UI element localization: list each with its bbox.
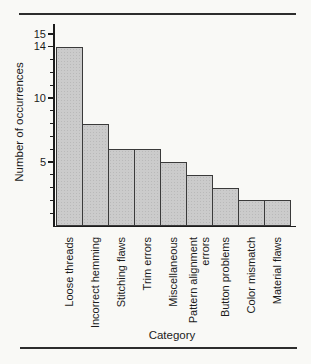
y-axis-title: Number of occurrences: [13, 47, 26, 197]
bar-pattern-alignment-errors: [186, 175, 213, 226]
bar-loose-threads: [56, 47, 83, 226]
x-tick-label-miscellaneous: Miscellaneous: [167, 237, 179, 333]
y-tick-label-15: 15: [22, 28, 46, 41]
x-axis-line: [53, 226, 296, 228]
y-tick-label-5: 5: [22, 156, 46, 169]
bar-material-flaws: [264, 200, 291, 226]
bar-button-problems: [212, 188, 239, 226]
x-tick-label-pattern-alignment-errors: Pattern alignment errors: [187, 237, 211, 333]
bar-incorrect-hemming: [82, 124, 109, 226]
y-tick-label-10: 10: [22, 92, 46, 105]
x-tick-label-material-flaws: Material flaws: [271, 237, 283, 333]
x-axis-title: Category: [127, 329, 217, 342]
top-rule: [19, 13, 296, 15]
y-axis-line: [53, 24, 55, 227]
x-tick-label-loose-threads: Loose threads: [63, 237, 75, 333]
x-tick-label-color-mismatch: Color mismatch: [245, 237, 257, 333]
x-tick-label-trim-errors: Trim errors: [141, 237, 153, 333]
bar-stitching-flaws: [108, 149, 135, 226]
bottom-rule: [20, 347, 297, 349]
x-tick-label-incorrect-hemming: Incorrect hemming: [89, 237, 101, 333]
scanned-figure-page: Number of occurrences 5101415 Loose thre…: [0, 0, 311, 364]
bar-miscellaneous: [160, 162, 187, 226]
y-tick-label-14: 14: [22, 40, 46, 53]
x-tick-label-button-problems: Button problems: [219, 237, 231, 333]
bar-color-mismatch: [238, 200, 265, 226]
x-tick-label-stitching-flaws: Stitching flaws: [115, 237, 127, 333]
bar-trim-errors: [134, 149, 161, 226]
